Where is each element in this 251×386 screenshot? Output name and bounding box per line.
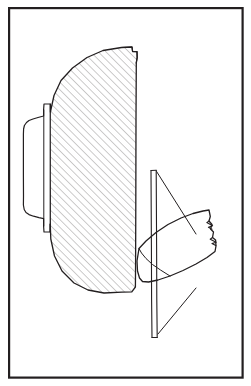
dome-section-hatching — [50, 47, 137, 293]
technical-drawing-canvas — [0, 0, 251, 386]
flange-body — [23, 104, 50, 232]
stepped-flange — [23, 104, 50, 232]
sectioned-dome — [50, 47, 137, 293]
figure-container — [0, 0, 251, 386]
